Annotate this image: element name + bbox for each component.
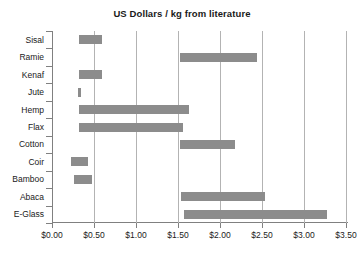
y-axis-label-coir: Coir xyxy=(0,157,44,167)
chart-title: US Dollars / kg from literature xyxy=(0,8,364,19)
x-axis-tick xyxy=(346,223,347,228)
gridline xyxy=(304,31,305,223)
gridline xyxy=(346,31,347,223)
y-axis-label-cotton: Cotton xyxy=(0,139,44,149)
y-axis-label-e-glass: E-Glass xyxy=(0,209,44,219)
y-axis-label-ramie: Ramie xyxy=(0,52,44,62)
gridline xyxy=(52,31,53,223)
bar-jute xyxy=(78,88,81,97)
bar-e-glass xyxy=(184,210,327,219)
bar-bamboo xyxy=(74,175,92,184)
bar-kenaf xyxy=(79,70,103,79)
y-axis-label-bamboo: Bamboo xyxy=(0,174,44,184)
bar-cotton xyxy=(180,140,235,149)
x-axis-tick xyxy=(304,223,305,228)
bar-hemp xyxy=(79,105,189,114)
x-axis-tick xyxy=(262,223,263,228)
x-axis-tick xyxy=(52,223,53,228)
bar-abaca xyxy=(181,192,265,201)
y-axis-label-jute: Jute xyxy=(0,87,44,97)
y-axis-label-kenaf: Kenaf xyxy=(0,70,44,80)
x-axis-tick xyxy=(94,223,95,228)
chart-container: US Dollars / kg from literature SisalRam… xyxy=(0,0,364,262)
x-axis-tick xyxy=(220,223,221,228)
bar-coir xyxy=(71,157,88,166)
bar-ramie xyxy=(180,53,257,62)
y-axis-label-sisal: Sisal xyxy=(0,35,44,45)
y-axis-label-flax: Flax xyxy=(0,122,44,132)
y-axis-label-hemp: Hemp xyxy=(0,105,44,115)
plot-area xyxy=(52,31,347,223)
y-axis-label-abaca: Abaca xyxy=(0,192,44,202)
bar-sisal xyxy=(79,35,103,44)
x-axis-tick-label: $3.50 xyxy=(316,230,364,240)
bar-flax xyxy=(79,123,183,132)
x-axis-tick xyxy=(136,223,137,228)
x-axis-tick xyxy=(178,223,179,228)
